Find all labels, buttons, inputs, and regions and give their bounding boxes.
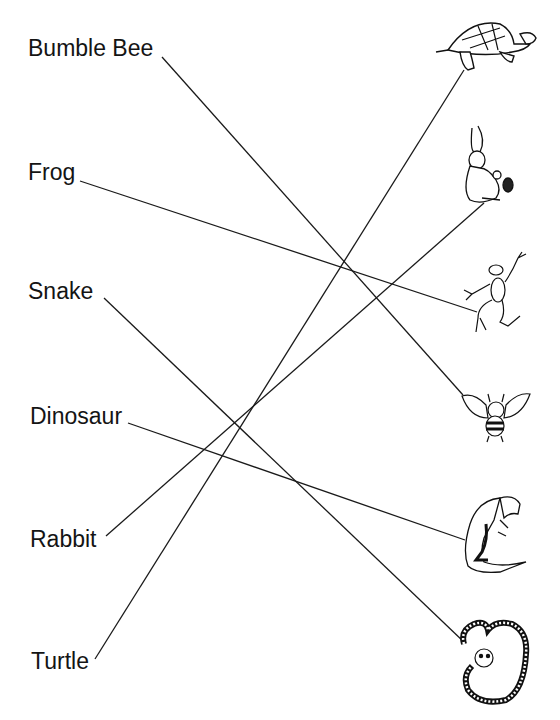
line-dinosaur-to-dinosaur	[128, 423, 465, 540]
line-bumble-bee-to-bee	[162, 57, 463, 395]
line-frog-to-frog	[80, 181, 477, 312]
dinosaur-icon	[465, 497, 526, 573]
frog-icon	[464, 252, 526, 332]
turtle-icon	[436, 23, 536, 70]
snake-icon	[463, 623, 526, 702]
line-snake-to-snake	[104, 298, 465, 643]
matching-lines	[0, 0, 560, 720]
line-turtle-to-turtle	[95, 70, 464, 659]
line-rabbit-to-rabbit	[106, 203, 484, 536]
bee-icon	[462, 394, 530, 442]
rabbit-icon	[466, 126, 513, 202]
